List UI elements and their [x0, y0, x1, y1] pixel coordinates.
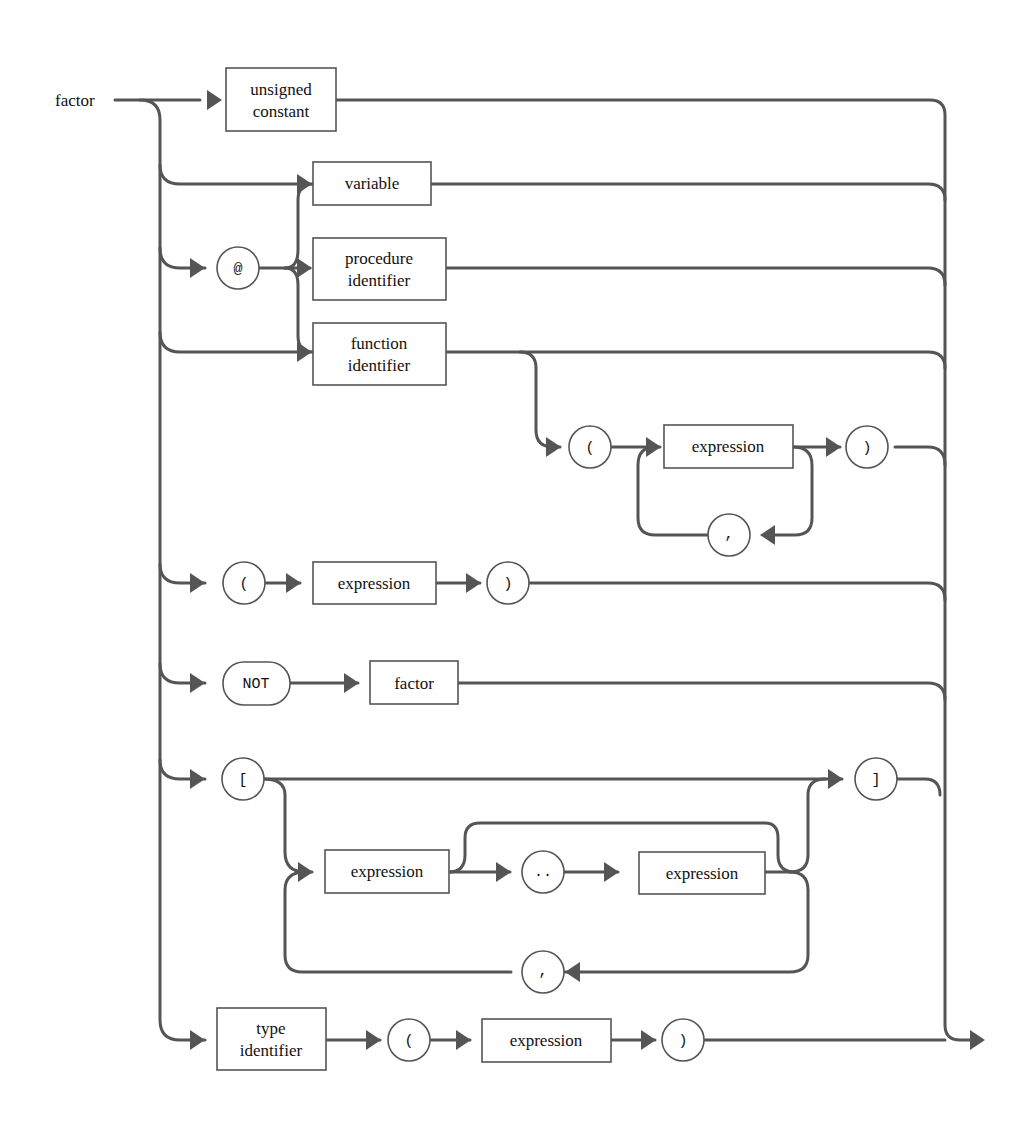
nonterminal-func-expression: expression [664, 425, 793, 468]
nonterminal-unsigned-constant: unsigned constant [226, 68, 336, 131]
svg-text:@: @ [233, 261, 242, 278]
nonterminal-paren-expression: expression [313, 562, 436, 604]
svg-text:expression: expression [666, 864, 739, 883]
svg-text:procedure: procedure [345, 249, 413, 268]
nonterminal-set-expression-1: expression [325, 850, 449, 893]
svg-text:]: ] [871, 772, 880, 789]
terminal-set-comma: , [522, 951, 564, 993]
terminal-lparen: ( [223, 562, 265, 604]
svg-text:(: ( [585, 440, 594, 457]
svg-text:identifier: identifier [240, 1041, 303, 1060]
svg-text:identifier: identifier [348, 356, 411, 375]
factor-syntax-diagram: factor [0, 0, 1036, 1137]
terminal-not: NOT [223, 662, 290, 705]
svg-text:): ) [678, 1033, 687, 1050]
svg-text:..: .. [534, 864, 552, 881]
arrowheads [190, 90, 985, 1050]
terminal-rparen: ) [487, 562, 529, 604]
terminal-rbracket: ] [855, 758, 897, 800]
svg-text:expression: expression [351, 862, 424, 881]
svg-text:NOT: NOT [242, 676, 269, 693]
svg-text:,: , [538, 963, 547, 980]
terminal-range: .. [522, 851, 564, 893]
terminal-at: @ [217, 247, 259, 289]
nonterminal-type-identifier: type identifier [217, 1008, 326, 1070]
svg-text:unsigned: unsigned [250, 80, 312, 99]
svg-text:factor: factor [394, 674, 434, 693]
terminal-func-lparen: ( [569, 426, 611, 468]
terminal-cast-lparen: ( [388, 1019, 430, 1061]
svg-text:type: type [256, 1019, 285, 1038]
svg-text:): ) [862, 440, 871, 457]
svg-text:identifier: identifier [348, 271, 411, 290]
terminal-cast-rparen: ) [662, 1019, 704, 1061]
svg-text:variable: variable [345, 174, 400, 193]
nonterminal-variable: variable [313, 162, 431, 205]
svg-text:(: ( [404, 1033, 413, 1050]
nonterminal-procedure-identifier: procedure identifier [313, 238, 446, 300]
svg-text:expression: expression [692, 437, 765, 456]
svg-text:expression: expression [338, 574, 411, 593]
terminal-func-rparen: ) [846, 426, 888, 468]
nonterminal-not-factor: factor [370, 661, 458, 704]
svg-text:[: [ [238, 772, 247, 789]
terminal-lbracket: [ [222, 758, 264, 800]
svg-text:constant: constant [253, 102, 310, 121]
svg-text:(: ( [239, 576, 248, 593]
svg-text:function: function [351, 334, 408, 353]
nonterminal-set-expression-2: expression [639, 852, 765, 894]
diagram-title: factor [55, 91, 95, 110]
nonterminal-function-identifier: function identifier [313, 323, 446, 385]
svg-text:expression: expression [510, 1031, 583, 1050]
terminal-func-comma: , [708, 514, 750, 556]
svg-text:,: , [724, 526, 733, 543]
svg-text:): ) [503, 576, 512, 593]
nonterminal-cast-expression: expression [482, 1019, 611, 1062]
